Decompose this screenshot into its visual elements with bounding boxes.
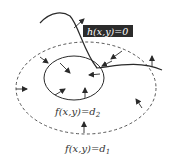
arrow-icon — [89, 74, 100, 75]
arrow-icon — [74, 19, 84, 28]
inner-level-label: f(x,y)=d2 — [54, 106, 101, 119]
constraint-label: h(x,y)=0 — [87, 26, 128, 37]
arrow-icon — [136, 99, 142, 108]
arrow-icon — [40, 57, 48, 63]
arrow-icon — [55, 89, 65, 95]
arrow-icon — [60, 63, 70, 73]
diagram-canvas: h(x,y)=0 f(x,y)=d2 f(x,y)=d1 — [0, 0, 173, 158]
inner-level-curve — [44, 56, 104, 100]
outer-level-label: f(x,y)=d1 — [64, 143, 110, 156]
arrow-icon — [111, 51, 122, 59]
outer-level-curve — [16, 42, 156, 134]
arrow-icon — [102, 61, 112, 66]
